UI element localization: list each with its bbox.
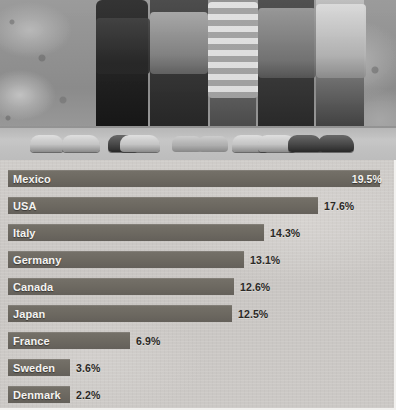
- bar-value-japan: 12.5%: [238, 308, 268, 320]
- bar-value-sweden: 3.6%: [76, 362, 100, 374]
- bar-value-italy: 14.3%: [270, 227, 300, 239]
- photo-shoe-7: [288, 135, 322, 152]
- photo-shorts-1: [150, 12, 208, 74]
- bar-row-sweden: Sweden 3.6%: [8, 359, 388, 376]
- bar-row-france: France 6.9%: [8, 332, 388, 349]
- photo-bare-foot-2: [198, 136, 228, 152]
- bar-label-usa: USA: [13, 200, 37, 212]
- bar-label-germany: Germany: [13, 254, 61, 266]
- bar-usa: [8, 197, 318, 214]
- bar-label-italy: Italy: [13, 227, 36, 239]
- bar-value-mexico: 19.5%: [352, 173, 382, 185]
- bar-value-denmark: 2.2%: [76, 389, 100, 401]
- bar-row-canada: Canada 12.6%: [8, 278, 388, 295]
- header-photo: [0, 0, 396, 160]
- bar-label-denmark: Denmark: [13, 389, 61, 401]
- bar-row-mexico: Mexico 19.5%: [8, 170, 388, 187]
- bar-row-japan: Japan 12.5%: [8, 305, 388, 322]
- infographic-page: Mexico 19.5% USA 17.6% Italy 14.3% Germa…: [0, 0, 396, 410]
- photo-shorts-3: [258, 8, 316, 78]
- bar-value-usa: 17.6%: [324, 200, 354, 212]
- photo-shoe-4: [120, 135, 160, 152]
- bar-label-mexico: Mexico: [13, 173, 51, 185]
- bar-label-france: France: [13, 335, 50, 347]
- photo-shoe-8: [318, 135, 354, 152]
- bar-label-sweden: Sweden: [13, 362, 55, 374]
- bar-chart: Mexico 19.5% USA 17.6% Italy 14.3% Germa…: [0, 160, 396, 410]
- bar-value-france: 6.9%: [136, 335, 160, 347]
- bar-label-canada: Canada: [13, 281, 53, 293]
- photo-shoe-2: [62, 135, 100, 152]
- photo-shorts-2: [208, 2, 258, 98]
- bar-row-germany: Germany 13.1%: [8, 251, 388, 268]
- bar-value-canada: 12.6%: [240, 281, 270, 293]
- photo-shoe-1: [30, 135, 64, 152]
- bar-value-germany: 13.1%: [250, 254, 280, 266]
- bar-italy: [8, 224, 264, 241]
- photo-shorts-4: [316, 4, 366, 78]
- photo-shorts-5: [96, 18, 150, 74]
- bar-row-usa: USA 17.6%: [8, 197, 388, 214]
- bar-row-denmark: Denmark 2.2%: [8, 386, 388, 403]
- bar-mexico: [8, 170, 380, 187]
- bar-row-italy: Italy 14.3%: [8, 224, 388, 241]
- bar-label-japan: Japan: [13, 308, 45, 320]
